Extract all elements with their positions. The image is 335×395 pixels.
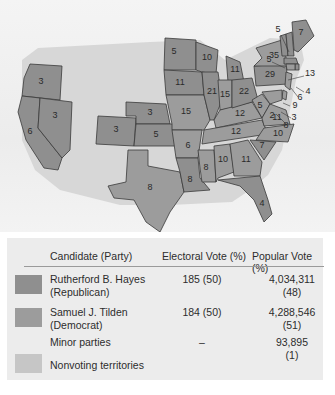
electoral-votes-me: 7: [298, 27, 303, 37]
electoral-votes-al: 10: [218, 154, 228, 164]
electoral-votes-tx: 8: [147, 182, 152, 192]
candidate-name: Rutherford B. Hayes: [50, 273, 145, 286]
candidate-party: (Republican): [50, 286, 145, 299]
swatch-democrat: [15, 308, 42, 327]
electoral-votes-in: 15: [220, 89, 230, 99]
electoral-votes-ms: 8: [203, 162, 208, 172]
electoral-votes-fl: 4: [259, 198, 264, 208]
electoral-votes-tn: 12: [231, 126, 241, 136]
electoral-votes-pa: 29: [265, 69, 275, 79]
electoral-votes-ca: 6: [27, 126, 32, 136]
electoral-votes-ne: 3: [147, 107, 152, 117]
electoral-votes-dc_md_small: 2: [269, 110, 274, 120]
header-divider: [24, 266, 324, 267]
state-ma: [284, 58, 298, 64]
popular-tilden: 4,288,546 (51): [257, 306, 327, 332]
electoral-votes-ks: 5: [153, 129, 158, 139]
us-map-1876: 3633358511156810218111512121011422511107…: [0, 0, 335, 232]
candidate-name: Samuel J. Tilden: [50, 306, 128, 319]
electoral-votes-nj: 9: [292, 100, 297, 110]
popular-pct: (48): [257, 286, 327, 299]
electoral-minor: –: [167, 336, 237, 349]
election-map: 3633358511156810218111512121011422511107…: [0, 0, 335, 232]
electoral-votes-ma: 13: [305, 68, 315, 78]
electoral-votes-mo: 15: [181, 106, 191, 116]
electoral-votes-ar: 6: [185, 140, 190, 150]
state-ct: [286, 64, 295, 70]
electoral-votes-ct: 6: [297, 92, 302, 102]
electoral-votes-nc: 10: [273, 128, 283, 138]
electoral-votes-wv: 5: [257, 100, 262, 110]
header-electoral: Electoral Vote (%): [162, 250, 246, 262]
swatch-republican: [15, 275, 42, 294]
swatch-nonvoting: [15, 354, 42, 373]
candidate-hayes: Rutherford B. Hayes (Republican): [50, 273, 145, 299]
electoral-votes-nh: 5: [266, 54, 271, 64]
state-mn: [164, 38, 196, 70]
candidate-party: (Democrat): [50, 319, 128, 332]
state-de: [282, 90, 287, 100]
popular-pct: (1): [257, 349, 327, 362]
electoral-votes-nv: 3: [52, 110, 57, 120]
electoral-votes-md: 8: [283, 120, 288, 130]
popular-minor: 93,895 (1): [257, 336, 327, 362]
electoral-votes-mi: 11: [230, 64, 239, 74]
electoral-votes-de: 3: [291, 112, 296, 122]
popular-count: 4,288,546: [257, 306, 327, 319]
candidate-minor: Minor parties: [50, 336, 111, 349]
electoral-votes-ky: 12: [235, 108, 245, 118]
header-candidate: Candidate (Party): [50, 250, 132, 262]
header-popular: Popular Vote (%): [252, 250, 323, 274]
electoral-votes-mn: 5: [171, 46, 176, 56]
electoral-hayes: 185 (50): [167, 273, 237, 286]
candidate-nonvoting: Nonvoting territories: [50, 359, 144, 372]
leader-line-ri: [296, 87, 304, 92]
electoral-votes-ia: 11: [175, 77, 184, 87]
popular-count: 93,895: [257, 336, 327, 349]
electoral-votes-sc: 7: [259, 140, 264, 150]
popular-pct: (51): [257, 319, 327, 332]
electoral-votes-vt: 5: [275, 24, 280, 34]
legend-panel: Candidate (Party) Electoral Vote (%) Pop…: [7, 238, 323, 380]
electoral-votes-or: 3: [38, 76, 43, 86]
electoral-votes-ri: 4: [305, 86, 310, 96]
electoral-votes-co: 3: [113, 124, 118, 134]
electoral-votes-wi: 10: [202, 52, 212, 62]
electoral-votes-oh: 22: [239, 86, 249, 96]
electoral-votes-il: 21: [207, 86, 217, 96]
candidate-tilden: Samuel J. Tilden (Democrat): [50, 306, 128, 332]
electoral-tilden: 184 (50): [167, 306, 237, 319]
electoral-votes-ga: 11: [241, 154, 250, 164]
popular-hayes: 4,034,311 (48): [257, 273, 327, 299]
popular-count: 4,034,311: [257, 273, 327, 286]
electoral-votes-la: 8: [187, 174, 192, 184]
state-ri: [295, 64, 299, 70]
